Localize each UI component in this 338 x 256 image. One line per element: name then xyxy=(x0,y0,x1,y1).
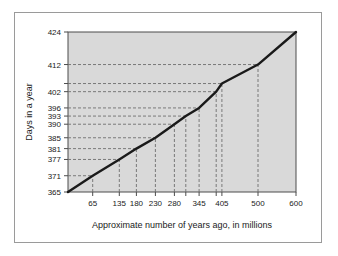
y-tick-label: 412 xyxy=(48,61,62,70)
x-tick-label: 500 xyxy=(251,199,265,208)
y-axis-ticks xyxy=(64,32,68,192)
y-tick-label: 365 xyxy=(48,188,62,197)
x-tick-label: 345 xyxy=(192,199,206,208)
x-tick-label: 230 xyxy=(149,199,163,208)
x-tick-label: 180 xyxy=(130,199,144,208)
x-tick-label: 280 xyxy=(168,199,182,208)
figure-container: 365371377381385390393396402412424 651351… xyxy=(0,0,338,256)
y-tick-label: 396 xyxy=(48,104,62,113)
y-axis-tick-labels: 365371377381385390393396402412424 xyxy=(48,28,62,197)
y-tick-label: 377 xyxy=(48,155,62,164)
x-axis-tick-labels: 65135180230280345405500600 xyxy=(88,199,303,208)
y-tick-label: 390 xyxy=(48,120,62,129)
x-tick-label: 135 xyxy=(113,199,127,208)
y-axis-title: Days in a year xyxy=(24,83,34,141)
plot-area-background xyxy=(68,32,296,192)
x-tick-label: 405 xyxy=(215,199,229,208)
x-tick-label: 65 xyxy=(88,199,97,208)
x-axis-title: Approximate number of years ago, in mill… xyxy=(92,220,273,230)
y-tick-label: 424 xyxy=(48,28,62,37)
x-axis-ticks xyxy=(93,192,296,196)
x-tick-label: 600 xyxy=(289,199,303,208)
y-tick-label: 402 xyxy=(48,88,62,97)
y-tick-label: 371 xyxy=(48,172,62,181)
y-tick-label: 381 xyxy=(48,145,62,154)
y-tick-label: 393 xyxy=(48,112,62,121)
line-chart: 365371377381385390393396402412424 651351… xyxy=(0,0,338,256)
y-tick-label: 385 xyxy=(48,134,62,143)
